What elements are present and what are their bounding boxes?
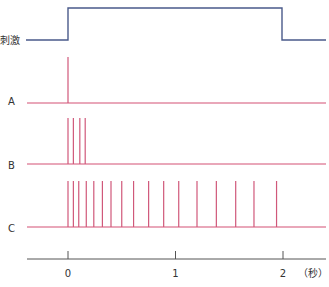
- unit-label: （秒）: [298, 267, 328, 279]
- tick-label-2: 2: [280, 268, 286, 279]
- spike-train-diagram: 刺激 A B C 0 1 2 （秒）: [0, 0, 329, 287]
- stimulus-step-line: [26, 8, 326, 40]
- stimulus-label: 刺激: [0, 34, 20, 46]
- row-c-spikes: [68, 181, 277, 227]
- row-a-label: A: [8, 96, 15, 107]
- row-c-label: C: [8, 223, 15, 234]
- row-b-label: B: [8, 160, 15, 171]
- tick-label-0: 0: [65, 268, 71, 279]
- tick-label-1: 1: [172, 268, 178, 279]
- row-b-spikes: [68, 118, 85, 164]
